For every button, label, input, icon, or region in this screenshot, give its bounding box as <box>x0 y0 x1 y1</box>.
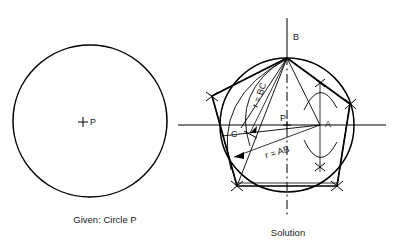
chord-b-to-upper-left <box>212 58 287 96</box>
given-center-label: P <box>90 117 96 127</box>
given-caption: Given: Circle P <box>73 214 136 225</box>
arc-cross-upper-right <box>345 99 356 109</box>
chord-upperleft-to-lowerleft <box>212 96 237 186</box>
chord-b-to-a <box>287 58 320 125</box>
label-radius-ab: r = AB <box>264 144 291 160</box>
label-point-b: B <box>293 32 299 42</box>
label-radius-bc: r = BC <box>250 81 268 109</box>
right-panel-solution: B P A C r = BC r = AB Solution <box>178 18 386 238</box>
arc-cross-upper-left <box>206 92 218 101</box>
dimension-arrow-bc <box>244 58 287 138</box>
bisector-arc-upper-right <box>304 92 337 110</box>
chord-upperright-to-lowerright <box>337 104 350 186</box>
bisector-arc-lower-right <box>304 140 337 158</box>
label-point-a: A <box>325 119 331 129</box>
construction-figure: P Given: Circle P <box>0 0 395 243</box>
label-point-p: P <box>280 113 286 123</box>
figure-canvas: P Given: Circle P <box>0 0 395 243</box>
label-point-c: C <box>231 129 238 139</box>
solution-caption: Solution <box>271 227 305 238</box>
left-panel-given-circle: P Given: Circle P <box>13 45 167 225</box>
center-plus-mark <box>78 117 88 127</box>
